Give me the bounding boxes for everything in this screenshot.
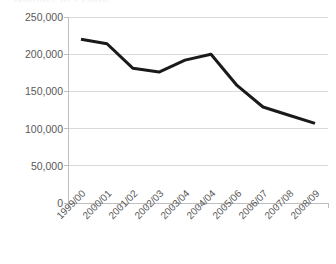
x-axis-tick-labels: 1999/002000/012001/022002/032003/042004/… — [0, 0, 336, 264]
line-chart: Number of People 050,000100,000150,00020… — [0, 0, 336, 264]
